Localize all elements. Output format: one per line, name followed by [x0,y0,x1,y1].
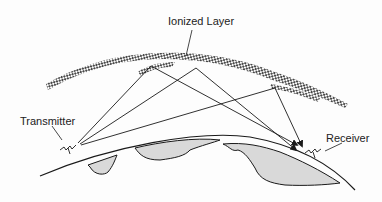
transmitter-leader [52,126,62,140]
ionized-layer [46,53,348,108]
transmitter-antenna-icon [60,145,76,154]
receiver-antenna-icon [305,149,321,158]
skywave-propagation-diagram: Ionized Layer Transmitter Receiver [0,0,382,202]
ionized-layer-leader [186,30,192,56]
ionized-layer-label: Ionized Layer [168,15,234,27]
diagram-canvas [0,0,382,202]
receiver-leader [325,143,342,151]
receiver-label: Receiver [326,132,369,144]
transmitter-label: Transmitter [20,115,75,127]
